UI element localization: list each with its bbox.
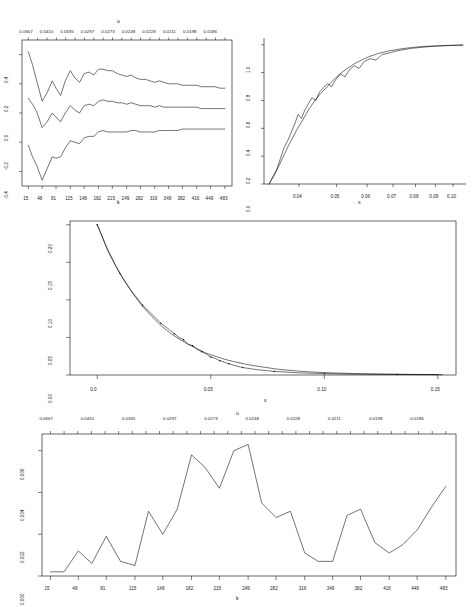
- tick-label: 282: [270, 586, 278, 591]
- tick-label: 0.2: [246, 178, 251, 184]
- tick-label: 0.2: [4, 105, 9, 111]
- tick-label: 249: [242, 586, 250, 591]
- tick-label: 0.6: [246, 122, 251, 128]
- panel-3-plot-area: [0, 205, 476, 405]
- panel-2-plot-area: [238, 18, 476, 208]
- tick-label: 115: [129, 586, 136, 591]
- tick-label: 0.0273: [101, 29, 114, 34]
- tick-label: 0.10: [317, 387, 326, 392]
- panel-2-distribution-fit-plot: 0.00.20.40.60.81.0 0.040.050.060.070.080…: [238, 18, 476, 208]
- tick-label: 382: [355, 586, 363, 591]
- tick-label: 0.05: [330, 194, 339, 199]
- tick-label: 0.000: [20, 594, 25, 606]
- tick-label: 0.0228: [142, 29, 155, 34]
- tick-label: 0.006: [20, 468, 25, 480]
- tick-label: 0.002: [20, 552, 25, 564]
- tick-label: 148: [79, 196, 87, 201]
- tick-label: 0.05: [48, 356, 53, 365]
- tick-label: 0.00: [48, 394, 53, 403]
- tick-label: -0.2: [4, 162, 9, 170]
- tick-label: 0.0198: [183, 29, 196, 34]
- tick-label: 0.0248: [245, 416, 258, 421]
- tick-label: 0.07: [387, 194, 396, 199]
- tick-label: 0.0: [90, 387, 96, 392]
- tick-label: 0.09: [429, 194, 438, 199]
- tick-label: 0.0410: [81, 416, 94, 421]
- tick-label: 282: [135, 196, 143, 201]
- panel-4-diagnostic-plot: u 0.06670.04100.03350.02970.02730.02480.…: [0, 408, 476, 607]
- tick-label: -0.4: [4, 191, 9, 199]
- tick-label: 0.0297: [163, 416, 176, 421]
- tick-label: 0.0410: [40, 29, 53, 34]
- tick-label: 15: [23, 196, 28, 201]
- tick-label: 0.20: [48, 244, 53, 253]
- tick-label: 0.0186: [204, 29, 217, 34]
- tick-label: 0.10: [447, 194, 456, 199]
- tick-label: 48: [37, 196, 42, 201]
- tick-label: 349: [164, 196, 172, 201]
- tick-label: 483: [440, 586, 448, 591]
- panel-4-top-axis-label: u: [236, 410, 239, 416]
- tick-label: 449: [411, 586, 419, 591]
- tick-label: 0.05: [204, 387, 213, 392]
- tick-label: 0.0: [4, 135, 9, 141]
- tick-label: 449: [206, 196, 214, 201]
- panel-3-tail-fit-plot: 0.000.050.100.150.20 0.00.050.100.15 x: [0, 205, 476, 405]
- panel-4-x-axis-label: k: [236, 595, 239, 601]
- panel-3-x-axis-label: x: [264, 397, 267, 403]
- tick-label: 15: [44, 586, 49, 591]
- tick-label: 0.06: [361, 194, 370, 199]
- tick-label: 349: [327, 586, 335, 591]
- tick-label: 0.0198: [369, 416, 382, 421]
- tick-label: 0.0228: [287, 416, 300, 421]
- panel-4-plot-area: [0, 408, 476, 607]
- tick-label: 215: [107, 196, 115, 201]
- tick-label: 115: [65, 196, 72, 201]
- figure-canvas: u 0.06670.04100.03350.02970.02730.02480.…: [0, 0, 476, 607]
- tick-label: 316: [299, 586, 307, 591]
- tick-label: 182: [186, 586, 194, 591]
- tick-label: 0.10: [48, 319, 53, 328]
- tick-label: 249: [122, 196, 130, 201]
- tick-label: 0.0273: [204, 416, 217, 421]
- tick-label: 0.15: [431, 387, 440, 392]
- tick-label: 148: [157, 586, 165, 591]
- tick-label: 215: [213, 586, 221, 591]
- tick-label: 81: [51, 196, 56, 201]
- tick-label: 416: [383, 586, 391, 591]
- tick-label: 0.8: [246, 94, 251, 100]
- tick-label: 0.04: [293, 194, 302, 199]
- tick-label: 316: [150, 196, 158, 201]
- tick-label: 416: [192, 196, 200, 201]
- tick-label: 0.4: [246, 150, 251, 156]
- tick-label: 0.0335: [60, 29, 73, 34]
- panel-1-parameter-stability-plot: u 0.06670.04100.03350.02970.02730.02480.…: [0, 18, 238, 208]
- tick-label: 382: [177, 196, 185, 201]
- tick-label: 0.0667: [39, 416, 52, 421]
- tick-label: 0.4: [4, 76, 9, 82]
- tick-label: 483: [220, 196, 228, 201]
- tick-label: 0.0297: [81, 29, 94, 34]
- tick-label: 0.08: [410, 194, 419, 199]
- tick-label: 0.0211: [328, 416, 341, 421]
- panel-1-plot-area: [0, 18, 238, 208]
- tick-label: 48: [72, 586, 77, 591]
- tick-label: 0.0667: [19, 29, 32, 34]
- tick-label: 0.0186: [410, 416, 423, 421]
- panel-1-top-axis-label: u: [117, 18, 120, 24]
- tick-label: 182: [93, 196, 101, 201]
- tick-label: 0.004: [20, 510, 25, 522]
- tick-label: 81: [100, 586, 105, 591]
- tick-label: 1.0: [246, 66, 251, 72]
- tick-label: 0.0211: [163, 29, 176, 34]
- tick-label: 0.15: [48, 281, 53, 290]
- tick-label: 0.0335: [122, 416, 135, 421]
- tick-label: 0.0248: [122, 29, 135, 34]
